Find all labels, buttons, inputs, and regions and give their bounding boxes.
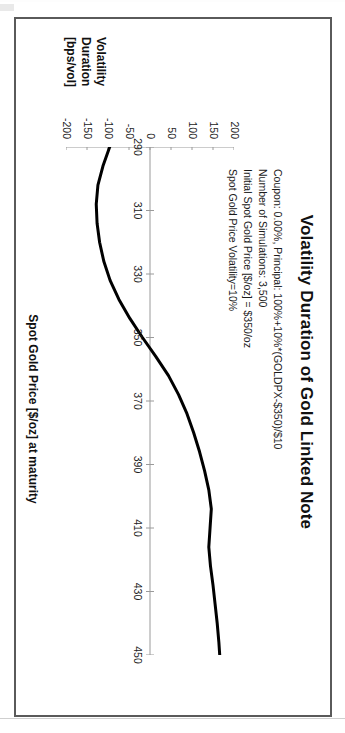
x-tick-label: 350 [132, 320, 144, 354]
x-axis [146, 147, 154, 655]
annotation-coupon: Coupon: 0.00%, Principal: 100%+10%*(GOLD… [270, 169, 285, 449]
x-tick-label: 330 [132, 257, 144, 291]
x-axis-title: Spot Gold Price [$/oz] at maturity [26, 269, 40, 549]
y-tick-label: 0 [145, 109, 157, 139]
scan-bottom-edge [0, 718, 345, 733]
x-tick-label: 450 [132, 638, 144, 672]
y-axis-title-line-1: Volatility [93, 37, 108, 141]
chart-figure: Volatility Duration of Gold Linked Note … [14, 17, 332, 717]
scan-top-edge [0, 0, 345, 2]
screenshot-page: Volatility Duration of Gold Linked Note … [0, 0, 345, 733]
plot-svg [66, 147, 234, 655]
y-tick-label: 200 [229, 109, 241, 139]
annotation-simulations: Number of Simulations: 3,500 [255, 169, 270, 449]
plot-area [66, 147, 234, 655]
y-axis-title-line-2: Duration [78, 37, 93, 141]
y-axis-title: Volatility Duration [bps/vol] [63, 37, 108, 141]
y-tick-label: 100 [187, 109, 199, 139]
chart-title: Volatility Duration of Gold Linked Note [296, 137, 316, 607]
data-series-line [96, 147, 219, 655]
y-tick-label: -50 [124, 109, 136, 139]
y-tick-label: 50 [166, 109, 178, 139]
x-tick-label: 310 [132, 193, 144, 227]
annotation-initial-spot: Initial Spot Gold Price [$/oz] = $350/oz [240, 169, 255, 449]
y-tick-label: 150 [208, 109, 220, 139]
x-tick-label: 430 [132, 574, 144, 608]
x-tick-label: 410 [132, 511, 144, 545]
y-axis-title-line-3: [bps/vol] [63, 37, 78, 141]
x-tick-label: 370 [132, 384, 144, 418]
scan-artifact [0, 4, 14, 11]
rotated-figure-wrapper: Volatility Duration of Gold Linked Note … [14, 17, 332, 717]
x-tick-label: 390 [132, 447, 144, 481]
